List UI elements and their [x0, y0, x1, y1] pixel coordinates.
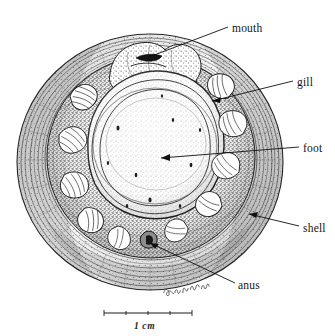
label-mouth: mouth	[232, 22, 262, 34]
label-gill: gill	[297, 76, 313, 88]
anatomical-illustration	[0, 0, 335, 336]
scale-bar-caption: 1 cm	[134, 321, 155, 331]
illustration-canvas	[0, 0, 335, 336]
label-foot: foot	[303, 142, 322, 154]
label-anus: anus	[238, 279, 260, 291]
label-shell: shell	[303, 222, 326, 234]
scale-bar	[104, 310, 192, 316]
